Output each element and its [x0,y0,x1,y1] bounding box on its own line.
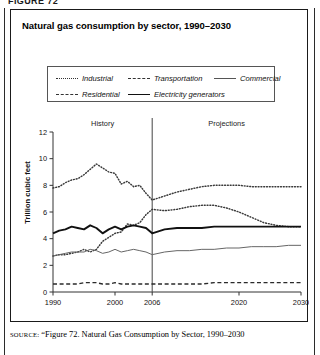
legend-label: Residential [82,90,120,99]
legend-line-dotted-icon [56,74,78,82]
legend-line-thin-solid-icon [214,74,236,82]
x-tick-label: 1990 [45,298,61,307]
x-tick-label: 2030 [293,298,309,307]
x-tick-label: 2020 [231,298,247,307]
y-tick-label: 12 [39,128,47,137]
source-caption: SOURCE: “Figure 72. Natural Gas Consumpt… [10,330,314,340]
chart-plot-area: Trillion cubic feet 02468101219902000200… [11,110,309,315]
line-chart: 02468101219902000200620202030HistoryProj… [11,110,309,315]
legend-label: Industrial [82,74,113,83]
x-tick-label: 2006 [144,298,160,307]
y-tick-label: 10 [39,154,47,163]
series-line-electricity-generators [53,205,301,256]
legend-line-thick-solid-icon [128,90,150,98]
y-tick-label: 2 [43,261,47,270]
figure-box: Natural gas consumption by sector, 1990–… [10,9,308,322]
legend-label: Commercial [240,74,281,83]
figure-title: Natural gas consumption by sector, 1990–… [22,20,231,31]
chart-annotation: History [91,119,114,128]
series-line-industrial [53,164,301,200]
series-line-transportation [53,283,301,284]
legend-line-dashed-icon [128,74,150,82]
legend-line-dashed-icon [56,90,78,98]
legend-row: Residential Electricity generators [48,85,274,103]
page-rule-left [4,8,5,355]
legend-item-residential: Residential [56,85,120,103]
x-tick-label: 2000 [107,298,123,307]
y-tick-label: 0 [43,288,47,297]
page-header-cutoff: FIGURE 72 [8,0,128,5]
legend-item-electricity-generators: Electricity generators [128,85,225,103]
y-axis-label: Trillion cubic feet [23,153,32,233]
chart-annotation: Projections [208,119,245,128]
source-text: “Figure 72. Natural Gas Consumption by S… [41,330,244,339]
legend-label: Electricity generators [154,90,225,99]
y-tick-label: 4 [43,234,47,243]
y-tick-label: 6 [43,208,47,217]
series-line-commercial [53,245,301,256]
chart-legend: Industrial Transportation Commercial Res… [47,66,275,102]
page-rule-right [314,8,315,355]
series-line-residential [53,225,301,233]
y-tick-label: 8 [43,181,47,190]
legend-label: Transportation [154,74,202,83]
source-label: SOURCE: [10,331,39,338]
